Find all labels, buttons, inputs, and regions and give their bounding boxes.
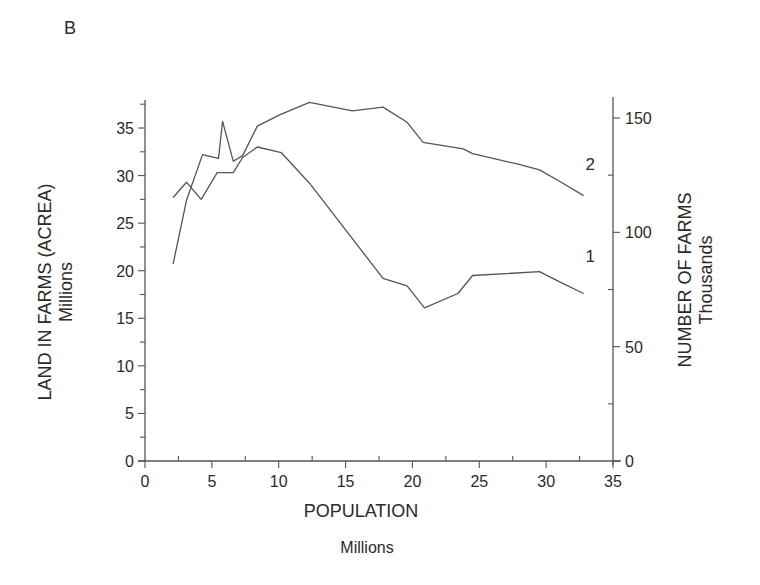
y2-tick-label: 50 (625, 339, 643, 356)
series-line-1 (173, 147, 583, 308)
x-tick-label: 0 (141, 473, 150, 490)
y-tick-label: 25 (116, 215, 134, 232)
x-tick-label: 30 (537, 473, 555, 490)
x-axis-units: Millions (340, 539, 393, 556)
x-tick-label: 25 (470, 473, 488, 490)
x-tick-label: 20 (404, 473, 422, 490)
x-tick-label: 10 (270, 473, 288, 490)
y-axis-units: Millions (56, 262, 76, 322)
y2-tick-label: 150 (625, 110, 652, 127)
axes: 0510152025303505101520253035050100150 (116, 97, 652, 490)
x-tick-label: 5 (207, 473, 216, 490)
y2-axis-units: Thousands (696, 235, 716, 324)
x-tick-label: 15 (337, 473, 355, 490)
y-tick-label: 0 (125, 453, 134, 470)
y2-axis-title: NUMBER OF FARMS (675, 192, 695, 367)
y-tick-label: 20 (116, 263, 134, 280)
y-tick-label: 30 (116, 168, 134, 185)
x-tick-label: 35 (604, 473, 622, 490)
y-tick-label: 5 (125, 405, 134, 422)
y-axis-title: LAND IN FARMS (ACREA) (35, 183, 55, 400)
axis-labels: LAND IN FARMS (ACREA) Millions NUMBER OF… (35, 183, 716, 556)
y2-tick-label: 100 (625, 224, 652, 241)
series-line-2 (173, 102, 583, 264)
series-label-2: 2 (586, 155, 595, 174)
y-tick-label: 35 (116, 120, 134, 137)
y-tick-label: 10 (116, 358, 134, 375)
series-label-1: 1 (586, 247, 595, 266)
x-axis-title: POPULATION (304, 501, 419, 521)
y-tick-label: 15 (116, 310, 134, 327)
y2-tick-label: 0 (625, 453, 634, 470)
dual-axis-line-chart: 0510152025303505101520253035050100150 12… (0, 0, 760, 585)
series-lines: 12 (173, 102, 595, 307)
